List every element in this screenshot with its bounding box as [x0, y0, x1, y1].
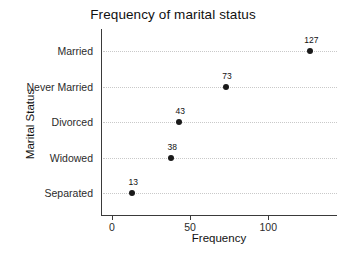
- y-axis-title: Marital Status: [24, 49, 36, 199]
- data-point: [168, 155, 174, 161]
- x-tick-mark: [112, 216, 113, 220]
- gridline: [103, 51, 337, 52]
- data-point-label: 43: [175, 106, 184, 116]
- gridline: [103, 87, 337, 88]
- data-point: [307, 48, 313, 54]
- x-axis-title: Frequency: [101, 232, 337, 244]
- chart-figure: Frequency of marital status Marital Stat…: [0, 0, 346, 254]
- y-tick-label-text: Married: [57, 45, 93, 57]
- data-point-label: 13: [129, 177, 138, 187]
- plot-area: MarriedNever MarriedDivorcedWidowedSepar…: [101, 29, 337, 216]
- y-tick-label-text: Widowed: [50, 152, 93, 164]
- y-tick-label-text: Divorced: [52, 116, 93, 128]
- x-axis-line: [101, 215, 337, 216]
- y-tick-label-text: Never Married: [26, 81, 93, 93]
- x-tick-mark: [190, 216, 191, 220]
- gridline: [103, 158, 337, 159]
- data-point-label: 127: [304, 35, 318, 45]
- gridline: [103, 193, 337, 194]
- chart-title: Frequency of marital status: [0, 7, 346, 22]
- data-point: [176, 119, 182, 125]
- data-point: [129, 190, 135, 196]
- data-point: [223, 84, 229, 90]
- gridline: [103, 122, 337, 123]
- data-point-label: 38: [168, 142, 177, 152]
- x-tick-mark: [268, 216, 269, 220]
- data-point-label: 73: [222, 71, 231, 81]
- y-tick-label-text: Separated: [45, 187, 93, 199]
- y-axis-line: [101, 29, 102, 216]
